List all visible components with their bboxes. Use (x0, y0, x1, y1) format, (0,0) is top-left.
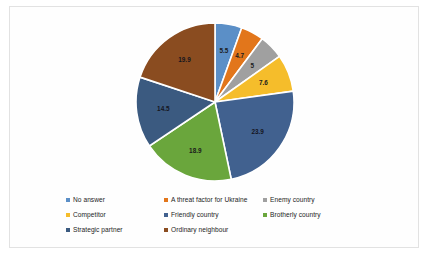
legend-item-label: No answer (73, 196, 105, 203)
pie-slice-value-label: 4.7 (235, 52, 244, 59)
pie-slice-value-label: 7.6 (259, 79, 268, 86)
pie-svg: 5.54.757.623.918.914.519.9 (134, 21, 296, 183)
pie-slice-value-label: 5.5 (220, 47, 229, 54)
legend-item-label: Enemy country (270, 196, 315, 203)
legend-item-label: Brotherly country (270, 211, 321, 218)
legend-item-no-answer[interactable]: No answer (66, 196, 164, 203)
legend-swatch-icon (263, 213, 267, 217)
legend-swatch-icon (66, 198, 70, 202)
chart-legend: No answer A threat factor for Ukraine En… (66, 192, 366, 237)
legend-swatch-icon (164, 228, 168, 232)
legend-item-enemy-country[interactable]: Enemy country (263, 196, 363, 203)
pie-chart: 5.54.757.623.918.914.519.9 No answer A t… (10, 7, 420, 249)
legend-row: Strategic partner Ordinary neighbour (66, 222, 366, 237)
pie-slice-value-label: 18.9 (189, 147, 202, 154)
legend-swatch-icon (66, 228, 70, 232)
legend-item-label: Strategic partner (73, 226, 123, 233)
legend-item-competitor[interactable]: Competitor (66, 211, 164, 218)
legend-item-brotherly-country[interactable]: Brotherly country (263, 211, 363, 218)
legend-item-label: Friendly country (171, 211, 219, 218)
pie-slice-value-label: 14.5 (157, 105, 170, 112)
legend-row: Competitor Friendly country Brotherly co… (66, 207, 366, 222)
legend-item-label: A threat factor for Ukraine (171, 196, 247, 203)
pie-slice-value-label: 19.9 (178, 56, 191, 63)
legend-item-label: Competitor (73, 211, 106, 218)
legend-item-ordinary-neighbour[interactable]: Ordinary neighbour (164, 226, 263, 233)
legend-item-strategic-partner[interactable]: Strategic partner (66, 226, 164, 233)
legend-swatch-icon (164, 213, 168, 217)
legend-item-threat-factor[interactable]: A threat factor for Ukraine (164, 196, 263, 203)
chart-frame: 5.54.757.623.918.914.519.9 No answer A t… (9, 6, 419, 248)
legend-item-friendly-country[interactable]: Friendly country (164, 211, 263, 218)
pie-graphic: 5.54.757.623.918.914.519.9 (134, 21, 296, 183)
legend-swatch-icon (164, 198, 168, 202)
legend-swatch-icon (66, 213, 70, 217)
legend-row: No answer A threat factor for Ukraine En… (66, 192, 366, 207)
pie-slice-value-label: 23.9 (251, 128, 264, 135)
legend-swatch-icon (263, 198, 267, 202)
legend-item-label: Ordinary neighbour (171, 226, 228, 233)
pie-slice-value-label: 5 (251, 62, 255, 69)
